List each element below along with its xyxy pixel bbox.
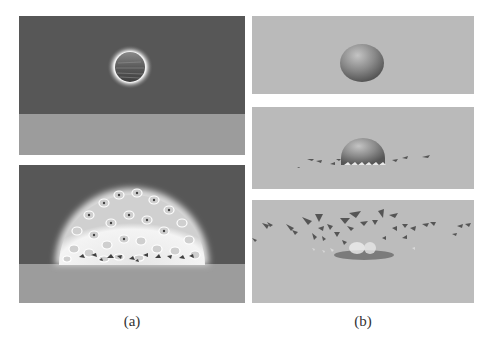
panel-a2-glowing-fragments: [19, 165, 245, 303]
shaded-sphere-scene: [252, 16, 474, 94]
panel-b1-shaded-sphere: [252, 16, 474, 94]
panel-a1-glowing-sphere: [19, 16, 245, 155]
panel-b2-sphere-impact: [252, 107, 474, 189]
shattered-shards-scene: [252, 200, 474, 303]
subfigure-label-a: (a): [112, 313, 152, 330]
sphere-impact-scene: [252, 107, 474, 189]
glowing-sphere-scene: [19, 16, 245, 155]
subfigure-label-b: (b): [343, 313, 383, 330]
glowing-fragments-scene: [19, 165, 245, 303]
panel-b3-shattered-shards: [252, 200, 474, 303]
